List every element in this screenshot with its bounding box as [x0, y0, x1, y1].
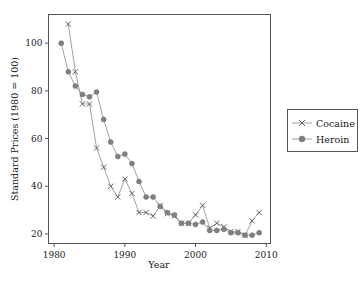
data-point — [59, 41, 64, 46]
y-tick-label: 100 — [25, 38, 42, 48]
data-point — [200, 203, 205, 208]
data-point — [257, 230, 262, 235]
data-point — [221, 227, 226, 232]
data-point — [94, 90, 99, 95]
legend: Cocaine Heroin — [288, 110, 358, 152]
data-point — [136, 179, 141, 184]
y-axis-title: Standard Prices (1980 = 100) — [9, 57, 20, 201]
data-point — [243, 233, 248, 238]
data-point — [101, 117, 106, 122]
y-tick-label: 20 — [31, 229, 43, 239]
data-point — [144, 194, 149, 199]
data-point — [129, 191, 134, 196]
legend-label-heroin: Heroin — [316, 134, 349, 145]
x-tick-label: 1980 — [43, 250, 66, 260]
data-point — [250, 233, 255, 238]
y-tick-label: 40 — [31, 181, 43, 191]
y-tick-label: 80 — [31, 86, 43, 96]
data-point — [200, 220, 205, 225]
data-point — [186, 221, 191, 226]
data-point — [151, 194, 156, 199]
x-tick-label: 1990 — [113, 250, 136, 260]
data-point — [108, 140, 113, 145]
data-point — [158, 204, 163, 209]
data-point — [207, 228, 212, 233]
y-tick-label: 60 — [31, 134, 43, 144]
data-point — [108, 184, 113, 189]
legend-label-cocaine: Cocaine — [316, 118, 355, 129]
data-point — [165, 210, 170, 215]
data-point — [179, 221, 184, 226]
data-point — [122, 176, 127, 181]
chart-figure: 20406080100 1980199020002010 Standard Pr… — [0, 0, 362, 283]
data-point — [235, 230, 240, 235]
data-point — [66, 69, 71, 74]
price-index-line-chart: 20406080100 1980199020002010 Standard Pr… — [0, 0, 362, 283]
data-point — [122, 152, 127, 157]
data-point — [193, 222, 198, 227]
x-tick-label: 2010 — [255, 250, 278, 260]
series-cocaine — [66, 21, 262, 237]
data-point — [151, 213, 156, 218]
data-point — [73, 84, 78, 89]
data-series-layer — [59, 21, 262, 237]
data-point — [80, 92, 85, 97]
data-point — [129, 161, 134, 166]
x-axis-title: Year — [147, 259, 170, 270]
y-axis-ticks: 20406080100 — [25, 38, 48, 239]
data-point — [115, 154, 120, 159]
data-point — [115, 194, 120, 199]
data-point — [228, 230, 233, 235]
data-point — [193, 212, 198, 217]
data-point — [214, 221, 219, 226]
data-point — [257, 210, 262, 215]
x-tick-label: 2000 — [184, 250, 207, 260]
data-point — [101, 165, 106, 170]
x-axis-ticks: 1980199020002010 — [43, 244, 278, 260]
data-point — [250, 218, 255, 223]
data-point — [172, 212, 177, 217]
data-point — [214, 228, 219, 233]
data-point — [87, 94, 92, 99]
series-heroin — [59, 41, 262, 238]
